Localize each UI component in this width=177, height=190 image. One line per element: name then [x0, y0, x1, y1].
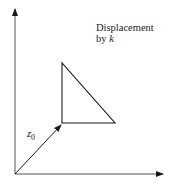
- displaced-triangle: [62, 63, 115, 123]
- displacement-annotation: Displacement by k: [96, 22, 154, 44]
- annotation-line-1: Displacement: [96, 22, 154, 33]
- k-variable: k: [109, 33, 114, 44]
- z0-label: z0: [27, 128, 35, 143]
- z0-vector-arrow: [15, 125, 61, 174]
- annotation-line-2: by k: [96, 33, 154, 44]
